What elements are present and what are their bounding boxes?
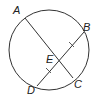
label-b: B — [83, 21, 90, 33]
circle-diagram: A B C D E — [0, 0, 92, 95]
label-c: C — [74, 78, 82, 90]
label-a: A — [12, 4, 20, 16]
label-e: E — [46, 53, 54, 65]
chord-ac — [25, 18, 73, 78]
label-d: D — [27, 84, 35, 95]
